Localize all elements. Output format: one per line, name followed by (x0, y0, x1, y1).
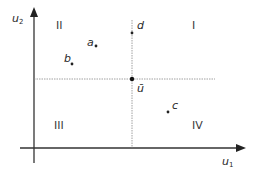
point-ubar (130, 77, 134, 81)
y-axis-label-sub: 2 (19, 18, 23, 26)
quadrant-label-ii: II (56, 20, 63, 31)
point-label-d: d (137, 20, 144, 31)
quadrant-label-iv: IV (192, 120, 203, 131)
x-axis-label-sub: 1 (229, 161, 233, 169)
point-label-c: c (172, 100, 178, 111)
point-a (95, 45, 98, 48)
point-label-a: a (87, 37, 94, 48)
quadrant-label-iii: III (54, 120, 64, 131)
y-axis-label-main: u (12, 12, 19, 25)
point-c (167, 111, 170, 114)
y-axis-label: u2 (12, 13, 23, 26)
x-axis-label: u1 (222, 156, 233, 169)
point-label-ubar: ū (137, 83, 144, 94)
quadrant-label-i: I (192, 20, 195, 31)
point-label-b: b (64, 53, 71, 64)
x-axis-label-main: u (222, 155, 229, 168)
quadrant-diagram: u2 u1 II I III IV d a b ū c (0, 0, 257, 174)
point-d (131, 32, 134, 35)
y-axis-arrow-icon (30, 7, 38, 17)
diagram-canvas (0, 0, 257, 174)
x-axis-arrow-icon (236, 144, 246, 152)
point-b (71, 63, 74, 66)
